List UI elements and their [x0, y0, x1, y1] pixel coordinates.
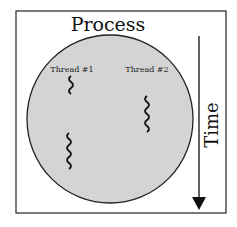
thread-1-label: Thread #1 [50, 65, 93, 74]
process-title: Process [71, 13, 146, 35]
thread-2-label: Thread #2 [125, 65, 168, 74]
process-thread-diagram: Process Thread #1 Thread #2 Time [0, 0, 237, 227]
process-circle [27, 35, 193, 203]
time-label: Time [201, 102, 222, 147]
